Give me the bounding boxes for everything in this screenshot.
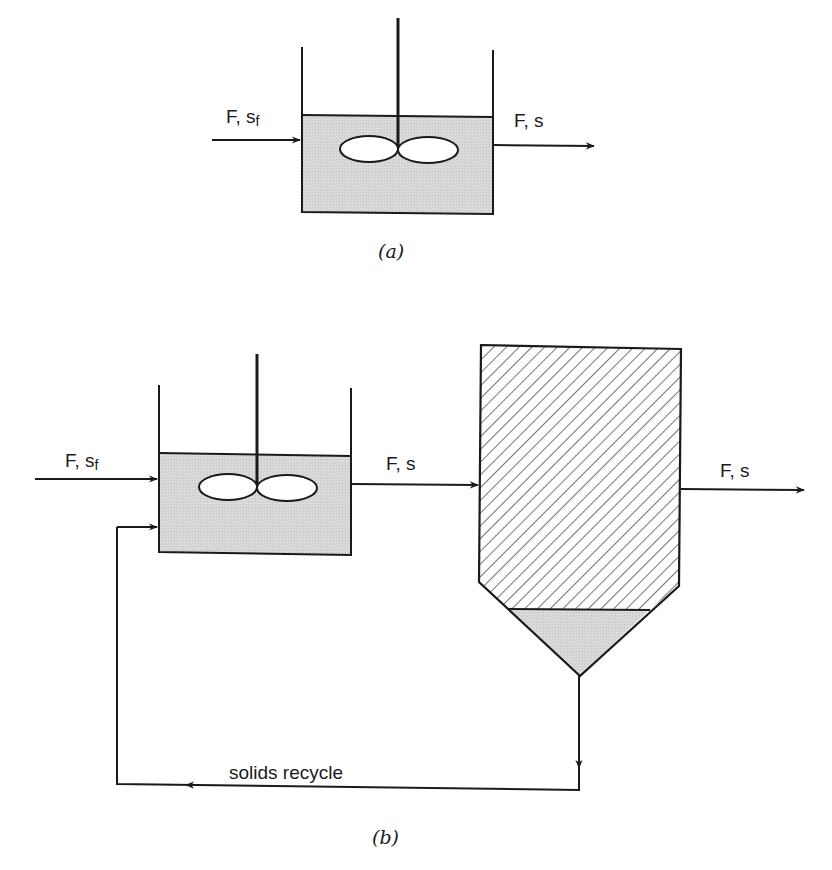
caption-b: (b) xyxy=(372,828,399,847)
settler-outlet-label-b: F, s xyxy=(720,461,750,480)
reactor-outlet-arrow xyxy=(352,484,478,485)
recycle-label: solids recycle xyxy=(229,763,343,782)
outlet-label-a: F, s xyxy=(514,111,544,130)
liquid-fill xyxy=(159,453,351,555)
reactor-b xyxy=(159,354,351,555)
panel-b xyxy=(35,345,804,790)
inlet-label-b: F, sf xyxy=(65,451,98,472)
settled-solids xyxy=(509,609,650,676)
diagram-canvas: F, sf F, s (a) F, sf F, s F, s solids re… xyxy=(0,0,832,870)
settler-outlet-arrow xyxy=(681,489,804,490)
diagram-svg xyxy=(0,0,832,870)
reactor-a xyxy=(302,18,493,214)
caption-a: (a) xyxy=(378,242,404,261)
settler-clear-zone xyxy=(479,345,681,609)
solids-interface xyxy=(509,609,650,610)
settler xyxy=(479,345,681,676)
inlet-label-a: F, sf xyxy=(226,107,259,128)
outlet-stream-arrow xyxy=(494,145,594,146)
reactor-outlet-label-b: F, s xyxy=(386,454,416,473)
